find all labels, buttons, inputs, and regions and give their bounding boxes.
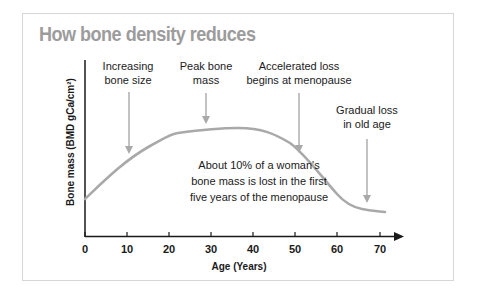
arrow-increasing-bone-size (125, 92, 133, 154)
x-tick-40: 40 (247, 243, 259, 255)
annotation-note-line2: bone mass is lost in the first (191, 175, 327, 187)
annotation-note-line3: five years of the menopause (190, 191, 328, 203)
annotation-increasing-line1: Increasing (103, 60, 154, 72)
x-tick-0: 0 (82, 243, 88, 255)
x-tick-30: 30 (205, 243, 217, 255)
x-tick-50: 50 (289, 243, 301, 255)
x-tick-10: 10 (121, 243, 133, 255)
x-axis (85, 232, 404, 241)
annotation-accelerated-line1: Accelerated loss (259, 60, 340, 72)
x-tick-60: 60 (331, 243, 343, 255)
x-tick-70: 70 (374, 243, 386, 255)
chart-plot: 0 10 20 30 40 50 60 70 Age (Years) Bone … (0, 0, 477, 296)
arrow-gradual-loss (363, 139, 371, 203)
annotation-peak-line1: Peak bone (180, 60, 233, 72)
annotation-peak-line2: mass (193, 74, 220, 86)
annotation-increasing-line2: bone size (104, 74, 151, 86)
annotation-accelerated-line2: begins at menopause (246, 74, 351, 86)
arrow-peak-bone-mass (202, 93, 210, 124)
annotation-gradual-line1: Gradual loss (336, 104, 398, 116)
annotation-gradual-line2: in old age (343, 118, 391, 130)
x-axis-title: Age (Years) (211, 261, 266, 272)
x-axis-arrow-icon (394, 232, 404, 241)
annotation-note-line1: About 10% of a woman's (198, 159, 320, 171)
arrow-accelerated-loss (295, 93, 303, 153)
y-axis-title: Bone mass (BMD gCa/cm²) (65, 78, 76, 206)
x-tick-20: 20 (163, 243, 175, 255)
